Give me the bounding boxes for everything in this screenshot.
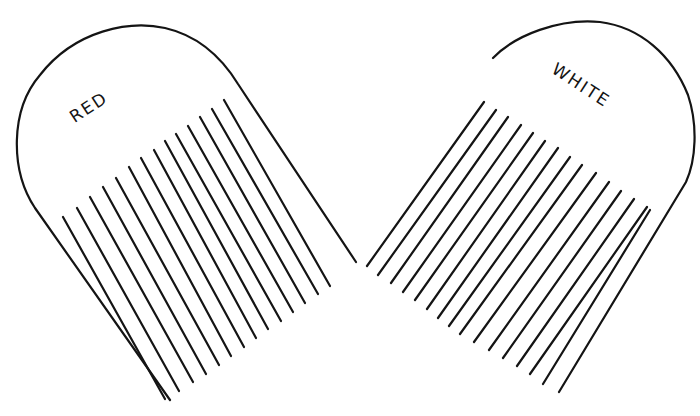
red-comb-tooth bbox=[63, 217, 165, 399]
white-comb-tooth bbox=[543, 210, 650, 384]
white-comb-teeth bbox=[367, 102, 650, 384]
white-comb-tooth bbox=[415, 133, 533, 300]
red-comb-tooth bbox=[224, 100, 330, 286]
white-comb-tooth bbox=[367, 102, 484, 266]
red-comb: RED bbox=[17, 25, 356, 400]
white-comb-tooth bbox=[503, 191, 621, 358]
red-comb-tooth bbox=[188, 126, 293, 312]
comb-diagram: RED WHITE bbox=[0, 0, 700, 416]
white-comb-tooth bbox=[449, 157, 570, 326]
white-comb-tooth bbox=[378, 110, 496, 275]
white-comb-tooth bbox=[489, 182, 609, 350]
white-comb-tooth bbox=[530, 207, 647, 374]
white-comb-tooth bbox=[403, 125, 521, 292]
red-comb-tooth bbox=[212, 109, 318, 294]
white-comb-tooth bbox=[517, 199, 634, 366]
red-comb-tooth bbox=[176, 134, 281, 321]
white-comb-tooth bbox=[427, 141, 545, 309]
red-comb-tooth bbox=[165, 141, 268, 329]
white-comb-tooth bbox=[438, 148, 558, 318]
red-comb-tooth bbox=[200, 117, 305, 303]
red-comb-tooth bbox=[77, 208, 179, 391]
red-comb-outline bbox=[17, 25, 356, 400]
white-comb: WHITE bbox=[367, 21, 695, 392]
red-comb-label: RED bbox=[66, 87, 112, 126]
white-comb-outline bbox=[493, 21, 695, 392]
white-comb-tooth bbox=[460, 165, 582, 334]
white-comb-label: WHITE bbox=[548, 59, 614, 112]
white-comb-tooth bbox=[391, 117, 508, 283]
white-comb-tooth bbox=[474, 173, 596, 342]
red-comb-teeth bbox=[63, 100, 330, 399]
